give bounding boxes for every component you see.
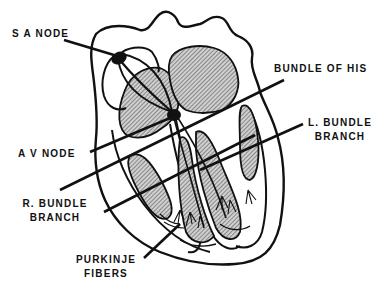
label-r-bundle-line1: R. BUNDLE xyxy=(14,197,96,211)
label-av-node: A V NODE xyxy=(18,147,76,161)
label-bundle-of-his: BUNDLE OF HIS xyxy=(274,62,367,76)
label-purkinje-fibers: PURKINJE FIBERS xyxy=(72,253,140,281)
label-r-bundle-line2: BRANCH xyxy=(14,211,96,225)
label-sa-node: S A NODE xyxy=(12,27,69,41)
label-purkinje-line2: FIBERS xyxy=(72,267,140,281)
label-r-bundle-branch: R. BUNDLE BRANCH xyxy=(14,197,96,225)
label-purkinje-line1: PURKINJE xyxy=(72,253,140,267)
label-l-bundle-line2: BRANCH xyxy=(300,130,380,144)
label-l-bundle-branch: L. BUNDLE BRANCH xyxy=(300,116,380,144)
label-l-bundle-line1: L. BUNDLE xyxy=(300,116,380,130)
heart-illustration xyxy=(0,0,386,288)
left-atrium xyxy=(169,46,239,113)
heart-conduction-diagram: S A NODE BUNDLE OF HIS A V NODE L. BUNDL… xyxy=(0,0,386,288)
